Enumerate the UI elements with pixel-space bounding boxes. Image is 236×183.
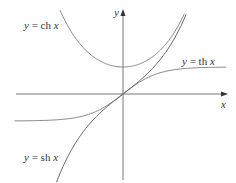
label-th-eq: = th	[187, 55, 210, 67]
label-th-x: x	[210, 55, 215, 67]
label-ch-eq: = ch	[29, 19, 54, 31]
curve-sh	[57, 15, 187, 183]
x-axis-arrow-icon	[221, 92, 228, 97]
y-axis-arrow-icon	[121, 9, 126, 16]
label-sh-eq: = sh	[29, 151, 53, 163]
label-sh-x: x	[53, 151, 58, 163]
label-sh: y = sh x	[24, 152, 58, 163]
label-ch-x: x	[54, 19, 59, 31]
label-th: y = th x	[182, 56, 215, 67]
label-ch: y = ch x	[24, 20, 59, 31]
x-axis-label: x	[221, 99, 226, 110]
curve-ch	[60, 10, 184, 67]
y-axis-label: y	[114, 7, 119, 18]
